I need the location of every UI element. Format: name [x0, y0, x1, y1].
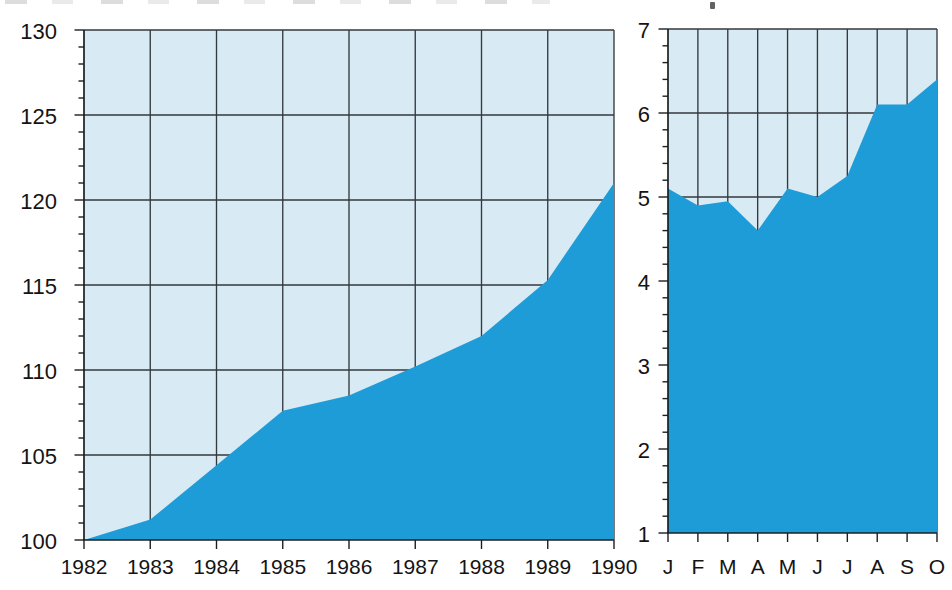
x-tick-label: S	[900, 555, 914, 578]
dual-area-charts: 1001051101151201251301982198319841985198…	[0, 0, 952, 590]
y-tick-label: 120	[20, 189, 57, 214]
x-tick-label: J	[812, 555, 823, 578]
y-tick-label: 115	[22, 274, 57, 299]
x-tick-label: M	[779, 555, 797, 578]
x-tick-label: J	[842, 555, 853, 578]
y-tick-label: 130	[20, 19, 57, 44]
y-tick-label: 6	[638, 102, 650, 127]
y-tick-label: 2	[638, 438, 650, 463]
x-tick-label: 1986	[326, 555, 373, 578]
x-tick-label: 1982	[61, 555, 108, 578]
y-tick-label: 105	[20, 444, 57, 469]
y-tick-label: 3	[638, 354, 650, 379]
x-tick-label: F	[691, 555, 704, 578]
x-tick-label: A	[870, 555, 884, 578]
x-tick-label: A	[751, 555, 765, 578]
x-tick-label: 1990	[591, 555, 638, 578]
x-tick-label: M	[719, 555, 737, 578]
y-tick-label: 1	[638, 522, 650, 547]
y-tick-label: 5	[638, 186, 650, 211]
x-tick-label: O	[929, 555, 945, 578]
x-tick-label: 1988	[458, 555, 505, 578]
x-tick-label: 1985	[259, 555, 306, 578]
y-tick-label: 100	[20, 529, 57, 554]
y-tick-label: 110	[22, 359, 57, 384]
x-tick-label: J	[663, 555, 674, 578]
x-tick-label: 1989	[524, 555, 571, 578]
figure-canvas: 1001051101151201251301982198319841985198…	[0, 0, 952, 590]
x-tick-label: 1983	[127, 555, 174, 578]
y-tick-label: 7	[638, 18, 650, 43]
x-tick-label: 1984	[193, 555, 240, 578]
x-tick-label: 1987	[392, 555, 439, 578]
y-tick-label: 125	[20, 104, 57, 129]
y-tick-label: 4	[638, 270, 650, 295]
